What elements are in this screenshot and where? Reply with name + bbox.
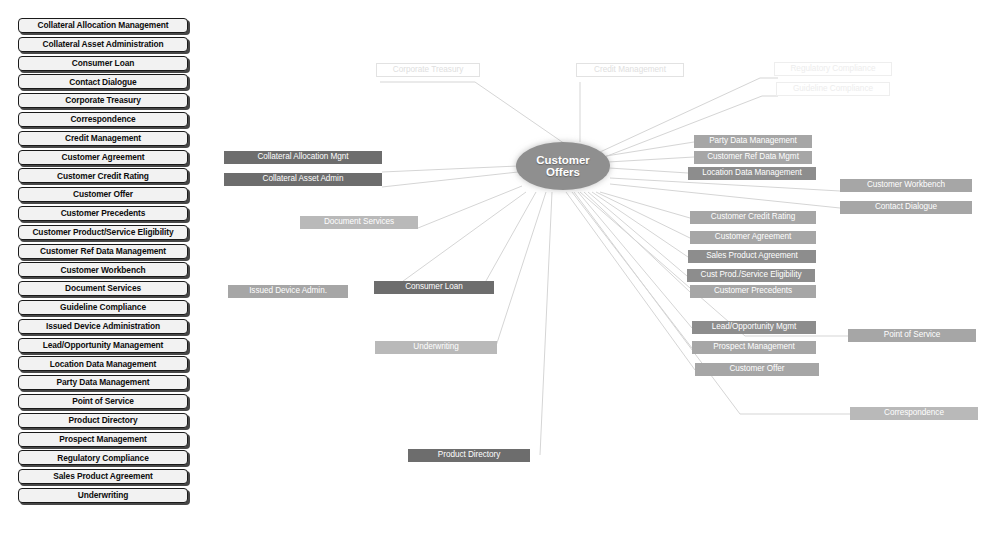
- ghost-node-label: Credit Management: [594, 66, 666, 74]
- legend-item[interactable]: Customer Workbench: [18, 262, 188, 277]
- wire-collateral-asset: [382, 172, 518, 187]
- legend-item-label: Customer Product/Service Eligibility: [32, 228, 173, 236]
- legend-item[interactable]: Guideline Compliance: [18, 300, 188, 315]
- ghost-node-corporate-treasury[interactable]: Corporate Treasury: [376, 63, 480, 77]
- node-point-of-service[interactable]: Point of Service: [848, 329, 976, 342]
- legend-item[interactable]: Customer Agreement: [18, 150, 188, 165]
- node-label: Location Data Management: [702, 169, 801, 177]
- node-label: Collateral Asset Admin: [263, 175, 344, 183]
- connector-lines: [200, 0, 994, 540]
- node-product-directory[interactable]: Product Directory: [408, 449, 530, 462]
- wire-customer-ref-data: [608, 157, 694, 162]
- legend-item[interactable]: Prospect Management: [18, 432, 188, 447]
- legend-item[interactable]: Collateral Allocation Management: [18, 18, 188, 33]
- node-party-data-management[interactable]: Party Data Management: [694, 135, 812, 148]
- legend-item-label: Corporate Treasury: [65, 96, 140, 104]
- node-label: Product Directory: [438, 451, 500, 459]
- legend-item[interactable]: Location Data Management: [18, 356, 188, 371]
- legend-item[interactable]: Regulatory Compliance: [18, 450, 188, 465]
- node-customer-agreement[interactable]: Customer Agreement: [690, 231, 816, 244]
- legend-item-label: Customer Ref Data Management: [40, 247, 166, 255]
- node-issued-device-admin[interactable]: Issued Device Admin.: [228, 285, 348, 298]
- node-label: Customer Agreement: [715, 233, 791, 241]
- node-label: Customer Credit Rating: [711, 213, 795, 221]
- node-cust-prod-service-eligibility[interactable]: Cust Prod./Service Eligibility: [687, 269, 815, 282]
- ghost-node-guideline-compliance[interactable]: Guideline Compliance: [776, 82, 890, 96]
- ghost-node-credit-management[interactable]: Credit Management: [576, 63, 684, 77]
- legend-item[interactable]: Product Directory: [18, 413, 188, 428]
- legend-item[interactable]: Correspondence: [18, 112, 188, 127]
- node-label: Correspondence: [884, 409, 944, 417]
- node-lead-opportunity-mgmt[interactable]: Lead/Opportunity Mgmt: [692, 321, 816, 334]
- capability-legend-panel: Collateral Allocation Management Collate…: [18, 18, 188, 507]
- legend-item-label: Product Directory: [68, 416, 137, 424]
- ghost-node-regulatory-compliance[interactable]: Regulatory Compliance: [774, 62, 892, 76]
- node-label: Customer Workbench: [867, 181, 945, 189]
- ghost-node-label: Corporate Treasury: [393, 66, 464, 74]
- wire-location-data: [609, 168, 688, 173]
- node-customer-credit-rating[interactable]: Customer Credit Rating: [690, 211, 816, 224]
- node-location-data-management[interactable]: Location Data Management: [688, 167, 816, 180]
- legend-item-label: Guideline Compliance: [60, 303, 146, 311]
- node-prospect-management[interactable]: Prospect Management: [692, 341, 816, 354]
- legend-item[interactable]: Customer Precedents: [18, 206, 188, 221]
- legend-item-label: Customer Credit Rating: [57, 172, 149, 180]
- legend-item-label: Document Services: [65, 284, 141, 292]
- node-customer-offer[interactable]: Customer Offer: [695, 363, 819, 376]
- legend-item[interactable]: Underwriting: [18, 488, 188, 503]
- legend-item-label: Contact Dialogue: [69, 78, 136, 86]
- legend-item[interactable]: Document Services: [18, 281, 188, 296]
- node-customer-precedents[interactable]: Customer Precedents: [690, 285, 816, 298]
- legend-item-label: Customer Precedents: [61, 209, 146, 217]
- node-sales-product-agreement[interactable]: Sales Product Agreement: [688, 250, 816, 263]
- legend-item[interactable]: Lead/Opportunity Management: [18, 338, 188, 353]
- legend-item[interactable]: Sales Product Agreement: [18, 469, 188, 484]
- node-customer-ref-data-mgmt[interactable]: Customer Ref Data Mgmt: [694, 151, 812, 164]
- legend-item[interactable]: Contact Dialogue: [18, 74, 188, 89]
- node-label: Prospect Management: [713, 343, 794, 351]
- legend-item[interactable]: Customer Offer: [18, 187, 188, 202]
- node-contact-dialogue[interactable]: Contact Dialogue: [840, 201, 972, 214]
- legend-item[interactable]: Customer Ref Data Management: [18, 244, 188, 259]
- node-label: Cust Prod./Service Eligibility: [701, 271, 802, 279]
- node-label: Underwriting: [413, 343, 458, 351]
- legend-item[interactable]: Customer Credit Rating: [18, 168, 188, 183]
- legend-item-label: Regulatory Compliance: [57, 454, 148, 462]
- node-label: Consumer Loan: [405, 283, 463, 291]
- legend-item-label: Customer Offer: [73, 190, 133, 198]
- wire-product-directory: [540, 192, 552, 455]
- legend-item[interactable]: Customer Product/Service Eligibility: [18, 225, 188, 240]
- hub-node-customer-offers[interactable]: Customer Offers: [516, 142, 610, 190]
- node-customer-workbench[interactable]: Customer Workbench: [840, 179, 972, 192]
- legend-item-label: Correspondence: [70, 115, 135, 123]
- legend-item[interactable]: Party Data Management: [18, 375, 188, 390]
- node-label: Point of Service: [884, 331, 941, 339]
- legend-item[interactable]: Issued Device Administration: [18, 319, 188, 334]
- wire-collateral-allocation: [382, 166, 518, 172]
- node-collateral-allocation-mgnt[interactable]: Collateral Allocation Mgnt: [224, 151, 382, 164]
- node-correspondence[interactable]: Correspondence: [850, 407, 978, 420]
- legend-item-label: Party Data Management: [57, 378, 150, 386]
- node-label: Customer Precedents: [714, 287, 792, 295]
- node-underwriting[interactable]: Underwriting: [375, 341, 497, 354]
- legend-item[interactable]: Collateral Asset Administration: [18, 37, 188, 52]
- wire-customer-offer: [566, 192, 695, 370]
- node-label: Sales Product Agreement: [706, 252, 798, 260]
- legend-item[interactable]: Consumer Loan: [18, 56, 188, 71]
- legend-item-label: Customer Workbench: [60, 266, 145, 274]
- wire-customer-agreement: [596, 192, 690, 238]
- legend-item[interactable]: Corporate Treasury: [18, 93, 188, 108]
- legend-item[interactable]: Credit Management: [18, 131, 188, 146]
- node-consumer-loan[interactable]: Consumer Loan: [374, 281, 494, 294]
- legend-item-label: Credit Management: [65, 134, 141, 142]
- node-label: Party Data Management: [709, 137, 797, 145]
- capability-relationship-diagram: Corporate Treasury Credit Management Reg…: [200, 0, 994, 540]
- legend-item-label: Point of Service: [72, 397, 134, 405]
- legend-item[interactable]: Point of Service: [18, 394, 188, 409]
- wire-underwriting: [496, 192, 546, 346]
- node-label: Customer Ref Data Mgmt: [707, 153, 799, 161]
- hub-title-line-2: Offers: [546, 166, 580, 179]
- legend-item-label: Prospect Management: [59, 435, 146, 443]
- node-document-services[interactable]: Document Services: [300, 216, 418, 229]
- node-collateral-asset-admin[interactable]: Collateral Asset Admin: [224, 173, 382, 186]
